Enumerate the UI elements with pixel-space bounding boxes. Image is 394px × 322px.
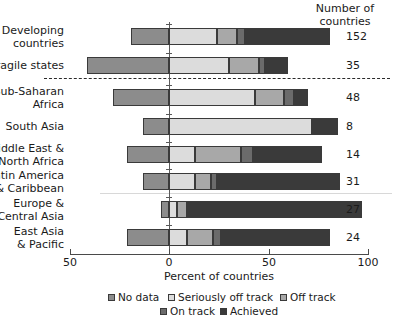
legend-swatch-icon [220,308,227,315]
bar-row[interactable] [0,146,394,163]
bar-segment-achieved[interactable] [221,229,330,246]
bar-segment-no-data[interactable] [161,201,169,218]
bar-segment-seriously-off-track[interactable] [169,229,187,246]
legend-label: Seriously off track [178,290,273,304]
legend-swatch-icon [280,294,287,301]
x-tick-mark [368,249,369,255]
legend-row-primary: No dataSeriously off trackOff track [108,290,370,304]
x-axis-line [70,254,368,255]
x-tick-label: 50 [254,256,284,269]
bar-segment-off-track[interactable] [187,229,213,246]
bar-segment-no-data[interactable] [143,173,169,190]
x-tick-label: 50 [55,256,85,269]
x-tick-mark [269,249,270,255]
bar-segment-off-track[interactable] [195,173,211,190]
legend-row-secondary: On trackAchieved [108,304,370,318]
bar-segment-achieved[interactable] [294,89,308,106]
zero-tick-stub [166,225,172,226]
legend: No dataSeriously off trackOff track On t… [108,290,370,318]
bar-segment-achieved[interactable] [253,146,323,163]
bar-row[interactable] [0,118,394,135]
bar-segment-no-data[interactable] [131,28,169,45]
faint-guide-line [100,193,392,194]
legend-label: Off track [290,290,336,304]
bar-segment-off-track[interactable] [229,57,259,74]
legend-item[interactable]: On track [160,304,220,318]
legend-swatch-icon [108,294,115,301]
zero-tick-stub [166,85,172,86]
bar-segment-achieved[interactable] [312,118,338,135]
bar-segment-seriously-off-track[interactable] [169,201,177,218]
x-tick-label: 100 [353,256,383,269]
bar-segment-no-data[interactable] [113,89,169,106]
legend-item[interactable]: Seriously off track [168,290,280,304]
zero-tick-stub [166,169,172,170]
bar-row[interactable] [0,57,394,74]
bar-segment-seriously-off-track[interactable] [169,57,229,74]
bar-segment-no-data[interactable] [87,57,169,74]
bar-row[interactable] [0,28,394,45]
bar-segment-seriously-off-track[interactable] [169,173,195,190]
bar-segment-off-track[interactable] [177,201,187,218]
legend-label: No data [118,290,159,304]
bar-segment-off-track[interactable] [217,28,237,45]
x-axis-title: Percent of countries [70,270,368,283]
bar-segment-achieved[interactable] [217,173,340,190]
zero-tick-stub [166,24,172,25]
legend-item[interactable]: Off track [280,290,350,304]
country-count-value: 31 [346,175,386,188]
bar-segment-achieved[interactable] [187,201,362,218]
bar-segment-achieved[interactable] [245,28,331,45]
country-count-value: 27 [346,203,386,216]
legend-item[interactable]: No data [108,290,168,304]
country-count-value: 35 [346,59,386,72]
x-tick-mark [169,249,170,255]
bar-row[interactable] [0,173,394,190]
bar-segment-seriously-off-track[interactable] [169,89,255,106]
bar-segment-achieved[interactable] [265,57,289,74]
bar-segment-no-data[interactable] [127,146,169,163]
zero-tick-stub [166,114,172,115]
bar-row[interactable] [0,89,394,106]
bar-row[interactable] [0,229,394,246]
legend-swatch-icon [160,308,167,315]
legend-label: Achieved [230,304,278,318]
bar-segment-off-track[interactable] [255,89,285,106]
bar-segment-seriously-off-track[interactable] [169,118,312,135]
bar-segment-seriously-off-track[interactable] [169,28,217,45]
zero-tick-stub [166,142,172,143]
legend-item[interactable]: Achieved [220,304,332,318]
zero-tick-stub [166,53,172,54]
bar-segment-on-track[interactable] [237,28,245,45]
bar-row[interactable] [0,201,394,218]
zero-tick-stub [166,197,172,198]
bar-segment-on-track[interactable] [213,229,221,246]
x-tick-mark [70,249,71,255]
country-count-value: 8 [346,120,386,133]
x-tick-label: 0 [154,256,184,269]
country-count-value: 152 [346,30,386,43]
bar-segment-on-track[interactable] [284,89,294,106]
bar-segment-no-data[interactable] [127,229,169,246]
stacked-bar-chart: Number of countries Developing countries… [0,0,394,322]
group-separator [44,78,390,79]
bar-segment-seriously-off-track[interactable] [169,146,195,163]
legend-swatch-icon [168,294,175,301]
legend-label: On track [170,304,215,318]
bar-segment-off-track[interactable] [195,146,241,163]
country-count-value: 14 [346,148,386,161]
country-count-value: 48 [346,91,386,104]
bar-segment-no-data[interactable] [143,118,169,135]
country-count-value: 24 [346,231,386,244]
bar-segment-on-track[interactable] [241,146,253,163]
